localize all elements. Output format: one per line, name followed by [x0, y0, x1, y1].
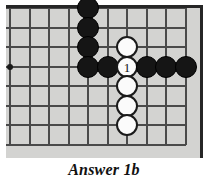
stone-black[interactable] — [175, 56, 197, 78]
grid-line-horizontal — [6, 85, 186, 87]
stone-white[interactable] — [116, 114, 138, 136]
stone-black[interactable] — [77, 36, 99, 58]
go-board: 1 — [0, 0, 208, 160]
grid-line-horizontal — [6, 124, 186, 126]
grid-line-horizontal — [6, 105, 186, 107]
grid-line-horizontal — [6, 144, 186, 146]
go-diagram-figure: 1 Answer 1b — [0, 0, 208, 190]
board-background — [6, 8, 202, 158]
stone-black[interactable] — [155, 56, 177, 78]
stone-black[interactable] — [77, 56, 99, 78]
star-point — [7, 64, 13, 70]
board-edge-right — [200, 5, 203, 158]
stone-move-number: 1 — [118, 58, 136, 77]
stone-white[interactable] — [116, 75, 138, 97]
board-edge-top — [6, 5, 203, 8]
stone-white[interactable] — [116, 36, 138, 58]
figure-caption: Answer 1b — [0, 161, 208, 179]
